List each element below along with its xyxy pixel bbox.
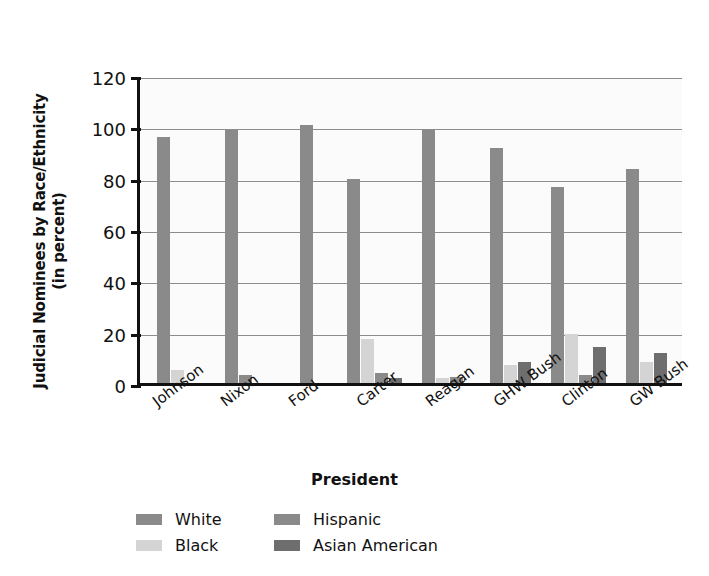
bar-group bbox=[347, 78, 402, 383]
bar-group bbox=[300, 78, 313, 383]
bar bbox=[157, 137, 170, 383]
y-axis-title-line2: (in percent) bbox=[50, 192, 68, 290]
x-axis-title: President bbox=[0, 470, 709, 489]
legend-swatch-icon bbox=[274, 540, 300, 551]
legend-label: Asian American bbox=[313, 536, 438, 555]
bar-group bbox=[490, 78, 531, 383]
bar bbox=[565, 334, 578, 383]
y-axis-tick bbox=[131, 282, 141, 285]
bar bbox=[225, 130, 238, 383]
legend-label: Hispanic bbox=[313, 510, 381, 529]
bar-group bbox=[422, 78, 463, 383]
bar bbox=[361, 339, 374, 383]
y-axis-tick-label: 0 bbox=[115, 376, 126, 397]
y-axis-tick bbox=[131, 77, 141, 80]
y-axis-tick bbox=[131, 334, 141, 337]
legend-item: Hispanic bbox=[274, 506, 556, 532]
legend-swatch-icon bbox=[274, 514, 300, 525]
y-axis-tick-label: 20 bbox=[103, 324, 126, 345]
bar-chart-figure: Judicial Nominees by Race/Ethnicity (in … bbox=[0, 0, 709, 576]
legend-swatch-icon bbox=[136, 540, 162, 551]
y-axis-tick-label: 100 bbox=[92, 119, 126, 140]
bar-group bbox=[157, 78, 184, 383]
legend-item: White bbox=[136, 506, 264, 532]
y-axis-tick-label: 60 bbox=[103, 222, 126, 243]
bar bbox=[422, 129, 435, 383]
y-axis-tick-label: 120 bbox=[92, 68, 126, 89]
y-axis-tick bbox=[131, 385, 141, 388]
bar-group bbox=[626, 78, 667, 383]
legend-swatch-icon bbox=[136, 514, 162, 525]
bar bbox=[347, 179, 360, 383]
y-axis-tick-label: 80 bbox=[103, 170, 126, 191]
bar-group bbox=[551, 78, 606, 383]
y-axis-tick bbox=[131, 180, 141, 183]
legend-label: White bbox=[175, 510, 222, 529]
bar bbox=[300, 125, 313, 383]
legend-item: Asian American bbox=[274, 532, 556, 558]
y-axis-title: Judicial Nominees by Race/Ethnicity (in … bbox=[31, 61, 69, 421]
bar bbox=[626, 169, 639, 383]
plot-area: 020406080100120 bbox=[137, 78, 682, 386]
bar bbox=[490, 148, 503, 383]
bar-group bbox=[225, 78, 252, 383]
y-axis-tick bbox=[131, 231, 141, 234]
y-axis-tick-label: 40 bbox=[103, 273, 126, 294]
legend-item: Black bbox=[136, 532, 264, 558]
y-axis-tick bbox=[131, 128, 141, 131]
legend-label: Black bbox=[175, 536, 218, 555]
chart-legend: WhiteHispanicBlackAsian American bbox=[136, 506, 556, 558]
y-axis-title-line1: Judicial Nominees by Race/Ethnicity bbox=[31, 93, 49, 388]
